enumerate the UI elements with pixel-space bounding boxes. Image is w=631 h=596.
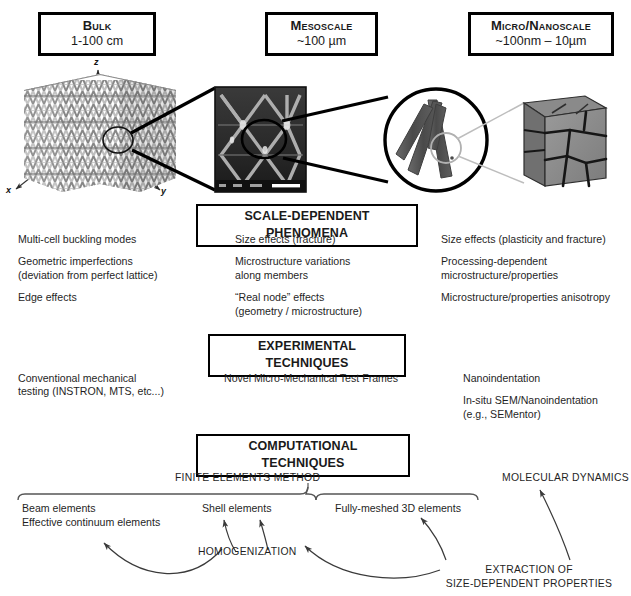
phenomena-meso-item-2: “Real node” effects (geometry / microstr… xyxy=(235,291,430,318)
bulk-lattice-image xyxy=(20,70,182,198)
bulk-zoom-locator xyxy=(103,127,133,153)
fem-element-shell: Shell elements xyxy=(202,502,272,515)
scale-range-bulk: 1-100 cm xyxy=(47,34,147,49)
experimental-micro-item-0: Nanoindentation xyxy=(463,372,631,385)
arrow-extraction-to-molecular-dynamics xyxy=(540,490,570,560)
group-label-finite-elements-method: FINITE ELEMENTS METHOD xyxy=(175,471,320,484)
phenomena-meso-item-0: Size effects (fracture) xyxy=(235,233,430,246)
micro-zoom-locator xyxy=(431,133,461,163)
meso-sem-image xyxy=(215,87,306,192)
axis-lines xyxy=(16,70,160,190)
phenomena-micro-item-2: Microstructure/properties anisotropy xyxy=(441,291,631,304)
experimental-meso-item-0: Novel Micro-Mechanical Test Frames xyxy=(224,372,434,385)
group-label-molecular-dynamics: MOLECULAR DYNAMICS xyxy=(502,471,629,484)
experimental-micro-item-1: In-situ SEM/Nanoindentation (e.g., SEMen… xyxy=(463,394,631,421)
meso-zoom-locator xyxy=(242,120,286,158)
arrow-extraction-to-shell xyxy=(305,546,440,578)
arrow-extraction-to-3d xyxy=(421,518,446,560)
phenomena-column-bulk: Multi-cell buckling modes Geometric impe… xyxy=(18,233,208,305)
annotation-extraction-line2: SIZE-DEPENDENT PROPERTIES xyxy=(429,577,629,590)
scale-box-micro-nanoscale: Micro/Nanoscale ~100nm – 10µm xyxy=(468,12,614,56)
axis-label-x: x xyxy=(6,185,11,195)
experimental-column-micro: Nanoindentation In-situ SEM/Nanoindentat… xyxy=(463,372,631,421)
phenomena-column-mesoscale: Size effects (fracture) Microstructure v… xyxy=(235,233,430,318)
experimental-bulk-item-0: Conventional mechanical testing (INSTRON… xyxy=(18,372,208,399)
experimental-column-bulk: Conventional mechanical testing (INSTRON… xyxy=(18,372,208,399)
phenomena-bulk-item-0: Multi-cell buckling modes xyxy=(18,233,208,246)
fem-element-effective-continuum: Effective continuum elements xyxy=(22,516,160,529)
scale-title-bulk: Bulk xyxy=(47,18,147,33)
phenomena-meso-item-1: Microstructure variations along members xyxy=(235,255,430,282)
phenomena-column-micro: Size effects (plasticity and fracture) P… xyxy=(441,233,631,305)
grain-cube-image xyxy=(524,96,606,186)
scale-range-mesoscale: ~100 µm xyxy=(274,34,369,49)
scale-title-mesoscale: Mesoscale xyxy=(274,18,369,33)
scale-range-micro-nanoscale: ~100nm – 10µm xyxy=(477,34,605,49)
annotation-extraction-line1: EXTRACTION OF xyxy=(429,563,629,576)
scale-title-micro-nanoscale: Micro/Nanoscale xyxy=(477,18,605,33)
annotation-homogenization: HOMOGENIZATION xyxy=(198,545,297,558)
phenomena-micro-item-1: Processing-dependent microstructure/prop… xyxy=(441,255,631,282)
phenomena-bulk-item-2: Edge effects xyxy=(18,291,208,304)
axis-label-y: y xyxy=(161,186,166,196)
fem-element-fully-meshed-3d: Fully-meshed 3D elements xyxy=(335,502,461,515)
fem-brace xyxy=(18,487,478,500)
section-header-experimental-techniques: EXPERIMENTAL TECHNIQUES xyxy=(208,334,406,377)
zoom-cone-meso-to-micro xyxy=(282,97,388,182)
experimental-column-mesoscale: Novel Micro-Mechanical Test Frames xyxy=(224,372,434,385)
axis-label-z: z xyxy=(94,57,99,67)
zoom-cone-micro-to-grain xyxy=(457,103,524,183)
strut-node-circle-image xyxy=(385,89,487,191)
multiscale-figure: Bulk 1-100 cm Mesoscale ~100 µm Micro/Na… xyxy=(0,0,631,596)
zoom-cone-bulk-to-meso xyxy=(131,88,215,190)
phenomena-bulk-item-1: Geometric imperfections (deviation from … xyxy=(18,255,208,282)
scale-box-mesoscale: Mesoscale ~100 µm xyxy=(265,12,378,56)
phenomena-micro-item-0: Size effects (plasticity and fracture) xyxy=(441,233,631,246)
scale-box-bulk: Bulk 1-100 cm xyxy=(38,12,156,56)
fem-element-beam: Beam elements xyxy=(22,502,96,515)
